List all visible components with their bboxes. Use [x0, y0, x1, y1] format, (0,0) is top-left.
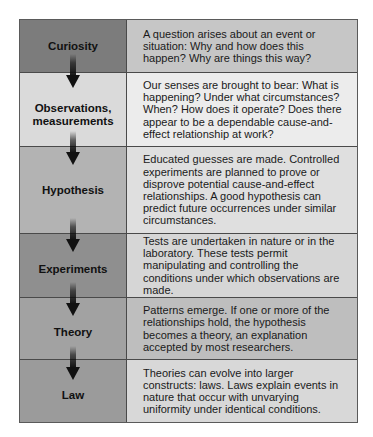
- description-text: Tests are undertaken in nature or in the…: [143, 235, 347, 296]
- stage-law: Law: [20, 360, 127, 422]
- stage-label: Experiments: [38, 255, 107, 276]
- description-hypothesis: Educated guesses are made. Controlled ex…: [127, 147, 357, 233]
- description-law: Theories can evolve into larger construc…: [127, 360, 357, 422]
- stage-label: Hypothesis: [42, 184, 104, 197]
- row-hypothesis: Hypothesis Educated guesses are made. Co…: [20, 146, 357, 233]
- description-experiments: Tests are undertaken in nature or in the…: [127, 234, 357, 297]
- stage-label: Curiosity: [48, 40, 98, 53]
- stage-hypothesis: Hypothesis: [20, 147, 127, 233]
- row-theory: Theory Patterns emerge. If one or more o…: [20, 297, 357, 359]
- stage-curiosity: Curiosity: [20, 20, 127, 72]
- description-observations: Our senses are brought to bear: What is …: [127, 73, 357, 146]
- description-curiosity: A question arises about an event or situ…: [127, 20, 357, 72]
- stage-label: Theory: [54, 318, 92, 339]
- row-experiments: Experiments Tests are undertaken in natu…: [20, 233, 357, 297]
- stage-observations: Observations, measurements: [20, 73, 127, 146]
- stage-label: Law: [62, 381, 84, 402]
- description-text: Educated guesses are made. Controlled ex…: [143, 153, 347, 226]
- stage-theory: Theory: [20, 298, 127, 359]
- description-text: Patterns emerge. If one or more of the r…: [143, 304, 347, 353]
- stage-experiments: Experiments: [20, 234, 127, 297]
- description-text: Theories can evolve into larger construc…: [143, 367, 347, 416]
- description-text: Our senses are brought to bear: What is …: [143, 79, 347, 140]
- description-theory: Patterns emerge. If one or more of the r…: [127, 298, 357, 359]
- row-curiosity: Curiosity A question arises about an eve…: [20, 20, 357, 72]
- row-observations: Observations, measurements Our senses ar…: [20, 72, 357, 146]
- description-text: A question arises about an event or situ…: [143, 28, 347, 65]
- stage-label: Observations, measurements: [20, 92, 126, 128]
- scientific-method-diagram: Curiosity A question arises about an eve…: [19, 19, 358, 423]
- row-law: Law Theories can evolve into larger cons…: [20, 359, 357, 422]
